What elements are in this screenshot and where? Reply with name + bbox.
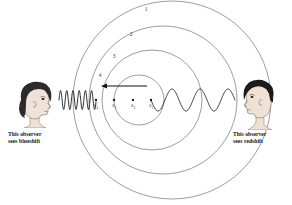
wavefront-label-4: 4 [99,72,102,78]
eye [251,96,254,98]
eye [42,98,45,100]
wavefront-label-1: 1 [145,6,148,12]
wavefront-circle-2 [89,26,237,174]
source-dot-4 [95,99,97,101]
wavefront-label-group: 1 2 3 4 [99,6,148,78]
left-observer [10,78,62,128]
source-dot-1 [150,99,152,101]
right-observer [234,76,286,130]
redshifted-wave-train [151,89,235,111]
arrow-head [101,83,107,88]
source-dot-group [95,99,152,101]
source-dot-2 [132,99,134,101]
wavefront-circle-4 [114,75,164,125]
right-observer-caption: This observer sees redshift [233,131,292,145]
source-label-3: S3 [112,103,116,109]
wavefront-label-2: 2 [130,31,133,37]
left-observer-caption: This observer sees blueshift [8,131,70,145]
source-label-2: S2 [131,103,135,109]
left-observer-head [19,82,51,128]
right-observer-head [244,80,274,130]
doppler-effect-figure: 1 2 3 4 S4S3S2S1 [0,0,292,205]
wavefront-label-3: 3 [113,53,116,59]
blueshifted-wave-train [59,91,96,110]
source-motion-arrow [101,83,147,88]
source-dot-3 [113,99,115,101]
